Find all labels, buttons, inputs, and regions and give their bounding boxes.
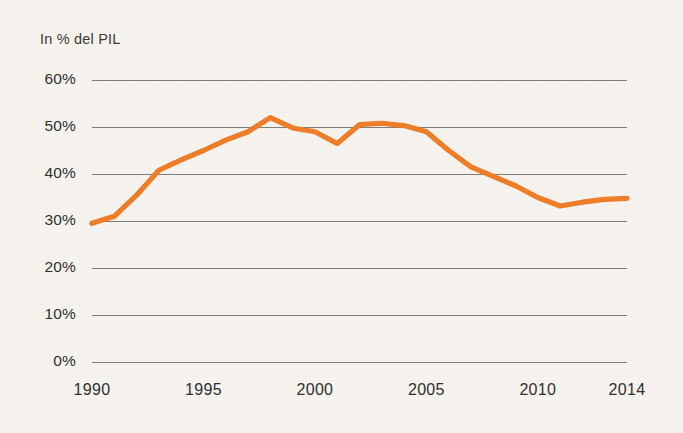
y-axis-tick-label: 20% — [24, 258, 76, 276]
x-axis-tick-label: 2005 — [391, 381, 461, 399]
y-axis-tick-label: 0% — [24, 352, 76, 370]
x-axis-tick-label: 2000 — [280, 381, 350, 399]
y-axis-tick-label: 50% — [24, 117, 76, 135]
x-axis-tick-label: 2014 — [592, 381, 662, 399]
data-series-line — [92, 118, 627, 224]
x-axis-tick-label: 2010 — [503, 381, 573, 399]
y-axis-tick-label: 60% — [24, 70, 76, 88]
x-axis-tick-label: 1995 — [168, 381, 238, 399]
y-axis-tick-label: 10% — [24, 305, 76, 323]
series-line — [92, 118, 627, 224]
y-axis-tick-label: 40% — [24, 164, 76, 182]
y-axis-tick-label: 30% — [24, 211, 76, 229]
x-axis-tick-label: 1990 — [57, 381, 127, 399]
chart-container: In % del PIL 0%10%20%30%40%50%60% 199019… — [0, 0, 683, 433]
chart-plot-area — [0, 0, 683, 433]
